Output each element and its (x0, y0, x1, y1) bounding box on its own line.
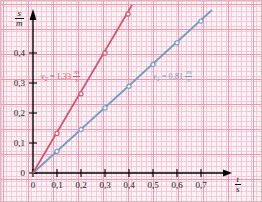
y-axis-label: s m (15, 9, 24, 29)
plot-svg (1, 1, 262, 202)
y-tick-label-1: 0,1 (1, 139, 25, 148)
y-tick-label-0: 0 (5, 169, 25, 178)
blue-unit: m s (185, 69, 192, 85)
red-subscript: 2 (45, 76, 48, 82)
x-axis-arrowhead (223, 170, 232, 177)
x-tick-label-1: 0,1 (51, 181, 62, 190)
plot-area (1, 1, 261, 201)
red-velocity-annotation: v2 = 1,33 m s (41, 69, 80, 85)
red-value: 1,33 (57, 72, 71, 81)
series-blue-v1 (33, 10, 212, 173)
physics-distance-time-graph: 0 0,1 0,2 0,3 0,4 0 0,1 0,2 0,3 0,4 0,5 … (0, 0, 262, 202)
blue-velocity-annotation: v1 = 0,81 m s (153, 69, 192, 85)
y-axis-label-denominator: m (15, 19, 24, 28)
x-tick-label-4: 0,4 (123, 181, 134, 190)
x-axis-label: t s (235, 175, 241, 195)
y-tick-label-2: 0,2 (1, 109, 25, 118)
x-tick-label-0: 0 (31, 181, 36, 190)
x-tick-label-2: 0,2 (75, 181, 86, 190)
y-axis-arrowhead (30, 9, 37, 20)
x-tick-label-3: 0,3 (99, 181, 110, 190)
axes-group (30, 9, 232, 176)
red-equals: = (50, 72, 55, 81)
x-axis-label-denominator: s (235, 185, 241, 194)
x-tick-label-7: 0,7 (195, 181, 206, 190)
red-trend-line (33, 5, 132, 173)
red-unit-denominator: s (73, 77, 80, 84)
series-red-v2 (33, 5, 132, 173)
y-tick-label-4: 0,4 (1, 49, 25, 58)
blue-equals: = (162, 72, 167, 81)
blue-value: 0,81 (169, 72, 183, 81)
x-tick-label-6: 0,6 (171, 181, 182, 190)
red-unit: m s (73, 69, 80, 85)
blue-trend-line (33, 10, 212, 173)
blue-subscript: 1 (157, 76, 160, 82)
x-tick-label-5: 0,5 (147, 181, 158, 190)
blue-unit-denominator: s (185, 77, 192, 84)
y-tick-label-3: 0,3 (1, 79, 25, 88)
